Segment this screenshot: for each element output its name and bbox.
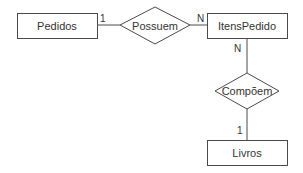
cardinality-pedidos: 1 — [100, 13, 106, 24]
entity-itens-pedido-label: ItensPedido — [218, 20, 276, 32]
entity-pedidos[interactable]: Pedidos — [18, 14, 98, 39]
entity-pedidos-label: Pedidos — [37, 20, 77, 32]
entity-livros[interactable]: Livros — [208, 141, 288, 166]
relationship-compoem[interactable]: Compõem — [215, 73, 279, 109]
er-diagram: Pedidos Possuem ItensPedido Compõem Livr… — [0, 0, 303, 173]
relationship-possuem[interactable]: Possuem — [120, 7, 190, 44]
entity-livros-label: Livros — [232, 147, 262, 159]
entity-itens-pedido[interactable]: ItensPedido — [208, 14, 288, 39]
relationship-compoem-label: Compõem — [222, 85, 273, 97]
cardinality-itenspedido-compoem: N — [234, 43, 241, 54]
cardinality-livros: 1 — [237, 125, 243, 136]
relationship-possuem-label: Possuem — [132, 20, 178, 32]
cardinality-itenspedido-possuem: N — [197, 13, 204, 24]
